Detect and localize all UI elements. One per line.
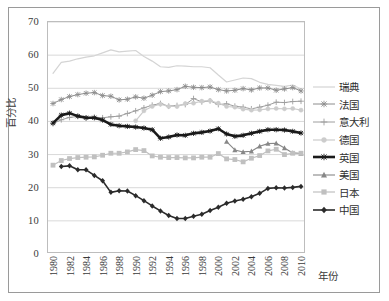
- line-triangle-marker-icon: [312, 168, 336, 182]
- line-bold-star-marker-icon: [312, 150, 336, 164]
- legend-label: 法国: [336, 97, 359, 112]
- x-axis-tick: 1988: [114, 256, 125, 276]
- x-axis-tick: 1984: [81, 256, 92, 276]
- legend-item[interactable]: 美国: [312, 166, 378, 184]
- x-axis-tick: 1996: [180, 256, 191, 276]
- line-star-marker-icon: [312, 97, 336, 111]
- x-axis-tick: 2006: [263, 256, 274, 276]
- x-axis-tick: 1994: [164, 256, 175, 276]
- legend-item[interactable]: 意大利: [312, 113, 378, 131]
- y-axis-tick: 20: [28, 181, 39, 192]
- y-axis-tick: 10: [28, 214, 39, 225]
- y-axis-tick: 30: [28, 148, 39, 159]
- data-series-layer: [48, 22, 304, 252]
- y-axis-title: 百分比: [3, 80, 18, 146]
- legend-label: 美国: [336, 167, 359, 182]
- chart-legend: 瑞典法国意大利德国英国美国日本中国: [312, 78, 378, 219]
- plot-area: [47, 21, 305, 253]
- y-axis-tick: 70: [28, 16, 39, 27]
- legend-label: 英国: [336, 150, 359, 165]
- x-axis-tick-labels: 1980198219841986198819901992199419961998…: [47, 256, 305, 292]
- x-axis-tick: 2002: [230, 256, 241, 276]
- legend-item[interactable]: 德国: [312, 131, 378, 149]
- legend-label: 日本: [336, 185, 359, 200]
- y-axis-tick: 60: [28, 49, 39, 60]
- line-square-marker-icon: [312, 185, 336, 199]
- y-axis-tick: 0: [34, 248, 39, 259]
- legend-label: 意大利: [336, 114, 369, 129]
- legend-item[interactable]: 英国: [312, 148, 378, 166]
- x-axis-tick: 1982: [65, 256, 76, 276]
- x-axis-tick: 2004: [246, 256, 257, 276]
- legend-label: 德国: [336, 132, 359, 147]
- legend-item[interactable]: 瑞典: [312, 78, 378, 96]
- x-axis-tick: 1998: [197, 256, 208, 276]
- x-axis-tick: 2010: [296, 256, 307, 276]
- x-axis-tick: 1992: [147, 256, 158, 276]
- line-plain-icon: [312, 80, 336, 94]
- x-axis-tick: 1990: [131, 256, 142, 276]
- x-axis-tick: 2008: [279, 256, 290, 276]
- legend-label: 瑞典: [336, 79, 359, 94]
- legend-item[interactable]: 日本: [312, 184, 378, 202]
- y-axis-tick: 40: [28, 115, 39, 126]
- line-diamond-marker-icon: [312, 203, 336, 217]
- x-axis-tick: 1980: [48, 256, 59, 276]
- x-axis-tick: 1986: [98, 256, 109, 276]
- legend-item[interactable]: 法国: [312, 96, 378, 114]
- x-axis-title: 年份: [318, 268, 338, 283]
- line-circle-marker-icon: [312, 133, 336, 147]
- y-axis-tick: 50: [28, 82, 39, 93]
- line-plus-marker-icon: [312, 115, 336, 129]
- x-axis-tick: 2000: [213, 256, 224, 276]
- chart-figure: 010203040506070 百分比 19801982198419861988…: [0, 0, 389, 301]
- legend-label: 中国: [336, 202, 359, 217]
- legend-item[interactable]: 中国: [312, 201, 378, 219]
